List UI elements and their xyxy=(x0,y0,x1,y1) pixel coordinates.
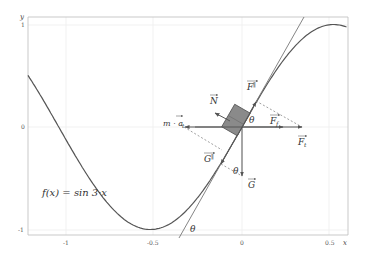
svg-text:t: t xyxy=(182,122,185,129)
theta-angle-bottom: θ xyxy=(190,224,196,234)
svg-text:G: G xyxy=(248,180,255,190)
x-tick-neg1: -1 xyxy=(63,239,69,246)
y-axis-ticks: y 1 0 -1 xyxy=(18,13,25,233)
label-F-t: F t xyxy=(297,136,307,148)
svg-text:∥: ∥ xyxy=(211,153,214,160)
theta-angle-top: θ xyxy=(249,115,255,125)
y-axis-label: y xyxy=(19,13,25,21)
x-tick-0: 0 xyxy=(240,239,244,246)
diagram: y 1 0 -1 -1 -0.5 0 0.5 x f(x) = sin 3·x xyxy=(0,0,367,260)
label-N: N xyxy=(209,95,219,106)
svg-text:N: N xyxy=(209,96,219,106)
x-axis-ticks: -1 -0.5 0 0.5 x xyxy=(63,239,347,247)
svg-text:m · a: m · a xyxy=(163,119,183,128)
x-tick-neg05: -0.5 xyxy=(147,239,159,246)
svg-text:t: t xyxy=(304,141,307,148)
theta-angle-mid: θ xyxy=(233,166,239,176)
grid xyxy=(28,17,348,235)
plot-frame xyxy=(28,17,348,235)
label-G-parallel: G ∥ xyxy=(204,153,215,164)
x-axis-label: x xyxy=(343,239,347,247)
label-G: G xyxy=(248,179,256,190)
y-tick-0: 0 xyxy=(21,123,25,130)
svg-text:∥: ∥ xyxy=(253,81,256,88)
label-inertial: m · a t xyxy=(163,116,185,129)
function-label: f(x) = sin 3·x xyxy=(41,187,107,198)
label-F-parallel: F ∥ xyxy=(246,81,258,92)
x-tick-05: 0.5 xyxy=(325,239,335,246)
label-F-f: F f xyxy=(269,115,280,128)
y-tick-1: 1 xyxy=(21,21,25,28)
y-tick-neg1: -1 xyxy=(18,226,24,233)
